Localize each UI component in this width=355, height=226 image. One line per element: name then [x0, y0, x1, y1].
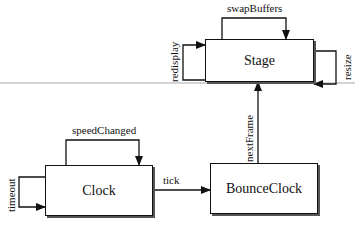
edge-speedchanged — [66, 140, 139, 165]
edge-label-swapbuffers: swapBuffers — [227, 2, 282, 14]
edge-label-tick: tick — [163, 174, 180, 186]
edge-label-nextframe: nextFrame — [243, 115, 255, 162]
edge-resize — [314, 51, 336, 84]
edge-label-timeout: timeout — [5, 178, 17, 212]
node-clock-label: Clock — [82, 183, 115, 199]
edge-label-redisplay: redisplay — [168, 42, 180, 82]
node-clock: Clock — [45, 165, 153, 216]
edge-label-speedchanged: speedChanged — [72, 124, 136, 136]
node-stage: Stage — [205, 39, 314, 82]
edge-timeout — [19, 177, 45, 207]
edge-redisplay — [183, 45, 205, 80]
edge-label-resize: resize — [341, 54, 353, 80]
edge-swapbuffers — [222, 18, 286, 39]
node-bounceclock-label: BounceClock — [226, 181, 302, 197]
node-bounceclock: BounceClock — [210, 163, 318, 214]
node-stage-label: Stage — [244, 53, 275, 69]
